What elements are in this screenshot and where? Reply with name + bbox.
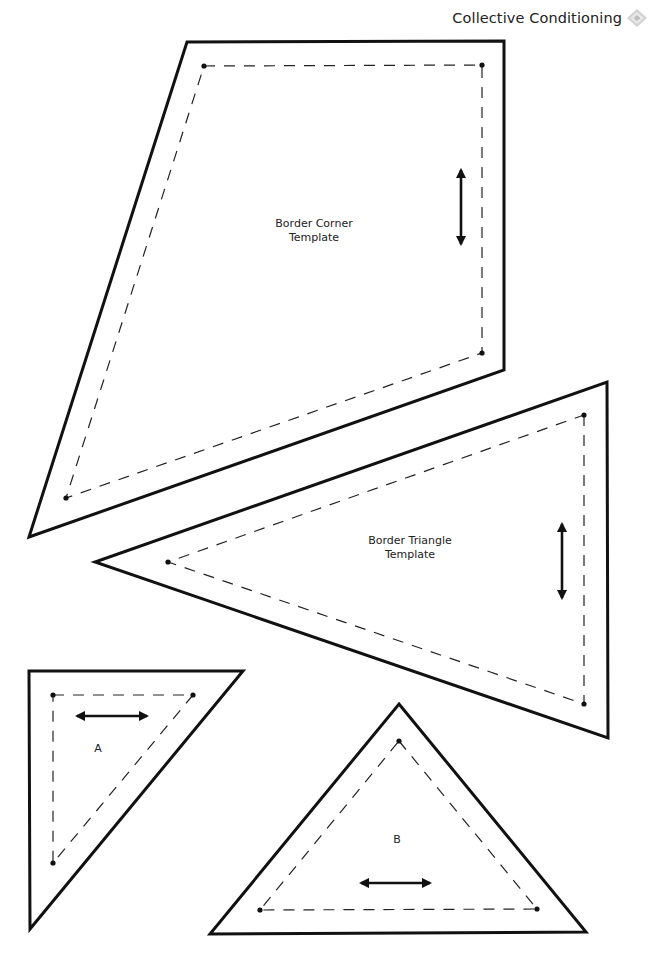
border-triangle-label-2: Template [384, 548, 435, 561]
border-triangle-label: Border Triangle [368, 534, 452, 547]
corner-dot [50, 860, 55, 865]
corner-dot [479, 350, 484, 355]
corner-dot [63, 495, 68, 500]
corner-dot [257, 907, 262, 912]
border-corner-label-2: Template [288, 231, 339, 244]
border-triangle-seam-line [168, 415, 584, 704]
border-triangle-template: Border Triangle Template [95, 382, 608, 738]
piece-b-template: B [210, 704, 586, 934]
piece-a-template: A [29, 671, 243, 929]
piece-a-cut-line [29, 671, 243, 929]
border-corner-seam-line [66, 65, 482, 498]
piece-b-seam-line [260, 741, 537, 910]
corner-dot [396, 738, 401, 743]
border-corner-cut-line [29, 41, 504, 537]
piece-b-label: B [393, 833, 401, 846]
corner-dot [190, 692, 195, 697]
corner-dot [534, 906, 539, 911]
corner-dot [165, 559, 170, 564]
corner-dot [201, 63, 206, 68]
border-corner-label: Border Corner [275, 217, 353, 230]
piece-a-seam-line [53, 695, 193, 863]
piece-a-label: A [94, 742, 102, 755]
corner-dot [581, 412, 586, 417]
border-corner-template: Border Corner Template [29, 41, 504, 537]
corner-dot [581, 701, 586, 706]
border-triangle-cut-line [95, 382, 608, 738]
corner-dot [479, 62, 484, 67]
template-sheet: Border Corner Template Border Triangle T… [0, 0, 652, 957]
corner-dot [50, 692, 55, 697]
